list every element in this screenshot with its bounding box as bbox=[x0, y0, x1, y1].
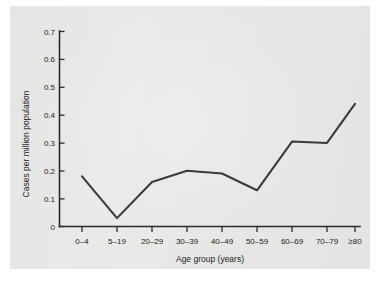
x-tick-label-3: 30–39 bbox=[176, 237, 199, 246]
chart-panel: Cases per million population 0.7 0.6 0.5… bbox=[10, 6, 370, 269]
x-tick-label-1: 5–19 bbox=[108, 237, 126, 246]
y-tick-label-0.7: 0.7 bbox=[44, 28, 56, 37]
y-tick-label-0.2: 0.2 bbox=[44, 167, 56, 176]
y-tick-label-0.5: 0.5 bbox=[44, 83, 56, 92]
x-tick-label-0: 0–4 bbox=[75, 237, 89, 246]
x-axis-title: Age group (years) bbox=[176, 254, 244, 264]
line-chart: Cases per million population 0.7 0.6 0.5… bbox=[10, 6, 370, 269]
data-series-line bbox=[82, 104, 355, 218]
x-tick-label-8: ≥80 bbox=[348, 237, 362, 246]
x-tick-label-4: 40–49 bbox=[211, 237, 234, 246]
x-tick-label-5: 50–59 bbox=[246, 237, 269, 246]
figure-container: Cases per million population 0.7 0.6 0.5… bbox=[0, 0, 380, 281]
y-tick-label-0.1: 0.1 bbox=[44, 195, 56, 204]
y-tick-label-0.3: 0.3 bbox=[44, 139, 56, 148]
y-tick-label-0: 0 bbox=[51, 223, 56, 232]
y-axis-title: Cases per million population bbox=[21, 90, 31, 197]
x-axis-ticks bbox=[82, 227, 355, 233]
x-tick-label-6: 60–69 bbox=[281, 237, 304, 246]
x-tick-label-7: 70–79 bbox=[316, 237, 339, 246]
x-tick-label-2: 20–29 bbox=[141, 237, 164, 246]
y-tick-label-0.4: 0.4 bbox=[44, 111, 56, 120]
y-tick-label-0.6: 0.6 bbox=[44, 55, 56, 64]
